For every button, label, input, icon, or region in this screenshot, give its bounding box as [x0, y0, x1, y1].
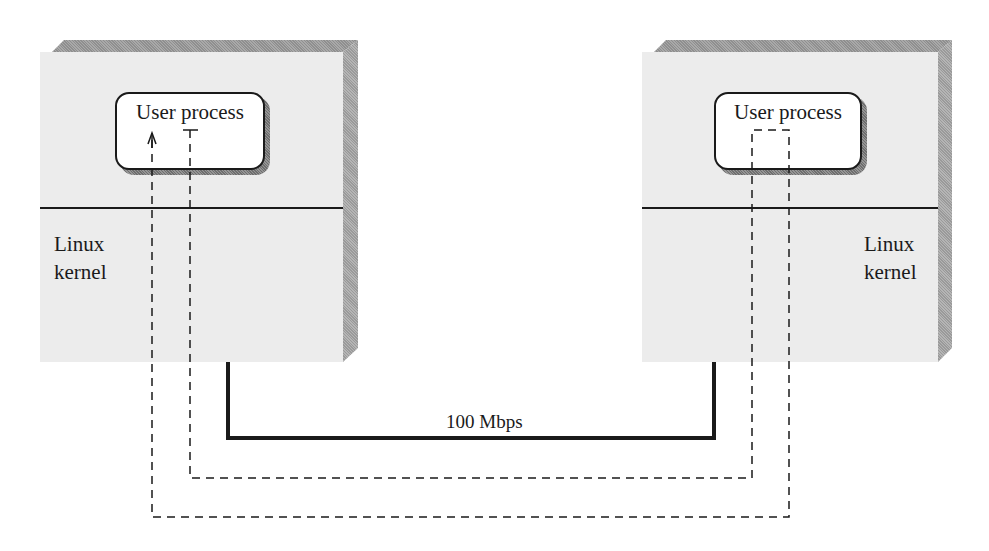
dashed-path-send — [152, 130, 789, 517]
link-speed-label: 100 Mbps — [446, 411, 523, 433]
connection-lines — [0, 0, 989, 551]
